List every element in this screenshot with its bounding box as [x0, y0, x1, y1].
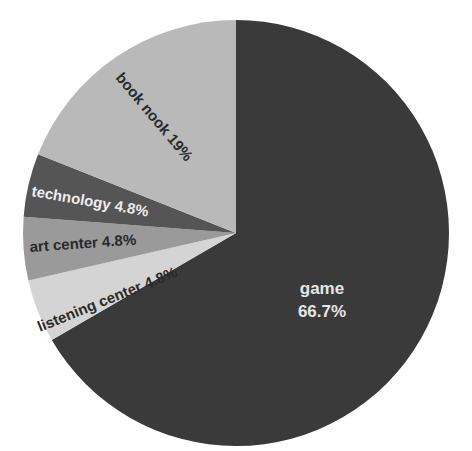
pie-slices	[23, 20, 449, 446]
pie-chart: game 66.7% listening center 4.8% art cen…	[0, 0, 472, 451]
label-game-name: game	[300, 279, 344, 298]
label-game-pct: 66.7%	[298, 302, 346, 321]
